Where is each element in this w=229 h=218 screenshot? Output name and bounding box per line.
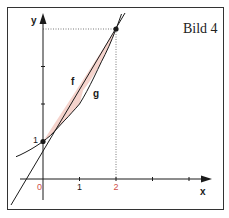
figure: Bild 4 y x 0 1 2 1 f g <box>0 0 229 218</box>
y-tick-label-1: 1 <box>33 135 38 145</box>
x-axis-label: x <box>200 186 206 197</box>
x-tick-label-1: 1 <box>77 182 82 192</box>
intersection-point-2-4 <box>113 26 118 31</box>
curve-g-label: g <box>93 88 99 99</box>
y-axis-label: y <box>31 15 37 26</box>
x-tick-label-2: 2 <box>114 182 119 192</box>
title-label: Bild 4 <box>183 21 218 36</box>
intersection-point-0-1 <box>40 139 45 144</box>
x-tick-label-0: 0 <box>37 182 42 192</box>
